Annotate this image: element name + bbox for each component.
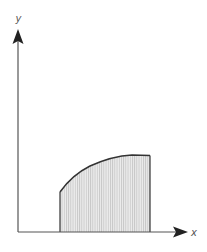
- shaded-region: [60, 155, 150, 232]
- x-axis-label: x: [190, 227, 197, 238]
- y-axis-label: y: [15, 13, 23, 24]
- area-under-curve-diagram: y x: [0, 0, 207, 252]
